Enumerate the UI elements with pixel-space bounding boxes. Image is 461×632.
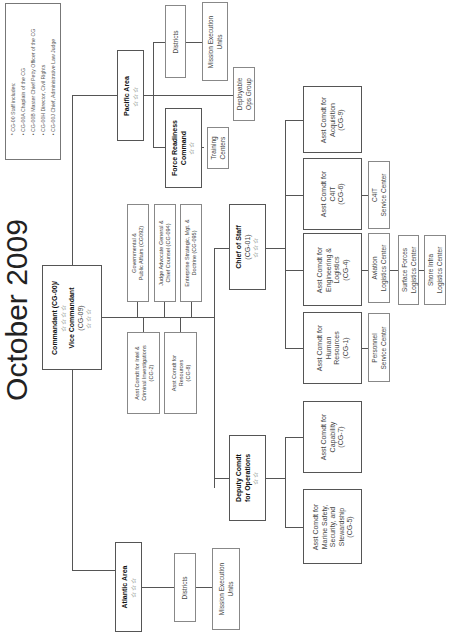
training-centers-box[interactable]: TrainingCenters [207, 127, 229, 169]
label: Asst Comdt for [320, 171, 327, 217]
c4it-service-center-box[interactable]: C4ITService Center [368, 161, 390, 229]
connector [214, 248, 215, 488]
surface-forces-logistics-center-box[interactable]: Surface ForcesLogistics Center [398, 235, 419, 305]
note-item: • CG-00H Director, Civil Rights [38, 28, 48, 134]
label: Capability [328, 422, 335, 453]
label: (CG-8) [184, 365, 190, 382]
staff-box-public-affairs[interactable]: Governmental &Public Affairs (CG092) [127, 204, 149, 302]
connector [285, 437, 286, 527]
label: (CG-9) [337, 109, 344, 130]
label: (CG-1) [341, 337, 348, 358]
asst-comdt-acquisition-box[interactable]: Asst Comdt forAcquisition(CG-9) [303, 86, 362, 153]
label: Asst Comdt for [320, 96, 327, 142]
staff-box-judge-advocate[interactable]: Judge Advocate General &Chief Counsel (C… [154, 204, 176, 302]
label: Stewardship [337, 507, 344, 546]
label: Chief Counsel (CG-094) [165, 224, 171, 283]
personnel-service-center-box[interactable]: PersonnelService Center [368, 313, 390, 382]
connector [164, 302, 165, 317]
label: Aviation [371, 256, 378, 279]
page-title: October 2009 [0, 219, 34, 401]
label: Asst Comdt for Intel & [133, 346, 139, 400]
force-readiness-box[interactable]: Force ReadinessCommand☆☆ [165, 108, 202, 188]
connector [214, 248, 229, 249]
label: Asst Comdt for [311, 503, 318, 549]
label: Surface Forces [400, 248, 407, 292]
label: C4IT [328, 186, 335, 201]
label: Logistics Center [435, 247, 442, 294]
note-heading: * CG-00 Staff includes: [8, 28, 18, 134]
note-item: • CG-00B Master Chief Petty Officer of t… [28, 28, 38, 134]
staff-box-intel[interactable]: Asst Comdt for Intel &Criminal Investiga… [127, 332, 160, 414]
vice-commandant-code: (CG-09) [76, 305, 83, 330]
note-item: • CG-00A Chaplain of the CG [18, 28, 28, 134]
label: Deployable [236, 78, 243, 111]
connector [137, 302, 138, 317]
label: Service Center [379, 174, 386, 217]
label: Enterprise Strategic, Mgt. & [184, 219, 190, 286]
label: Engineering & [324, 248, 331, 292]
label: Mission Execution [218, 563, 225, 615]
label: (CG-6) [337, 183, 344, 204]
label: (CG-01) [243, 234, 250, 259]
connector [285, 120, 286, 348]
connector [214, 478, 229, 479]
label: Marine Safety, [320, 504, 327, 549]
stars-icon: ☆☆☆ [129, 566, 138, 609]
asst-comdt-marine-safety-box[interactable]: Asst Comdt forMarine Safety,Security, an… [303, 489, 362, 564]
label: Units [226, 582, 233, 597]
vice-commandant-title: Vice Commandant [68, 287, 75, 348]
label: Force Readiness [171, 120, 178, 176]
atlantic-area-box[interactable]: Atlantic Area☆☆☆ [115, 542, 142, 632]
label: Asst Comdt for [320, 414, 327, 460]
asst-comdt-capability-box[interactable]: Asst Comdt forCapability(CG-7) [303, 401, 362, 473]
label: Judge Advocate General & [158, 220, 164, 285]
label: Criminal Investigations [140, 345, 146, 400]
label: Asst Comdt for [316, 246, 323, 292]
label: (CG-5) [345, 516, 352, 537]
deputy-comdt-ops-box[interactable]: Deputy Comdtfor Operations☆☆ [229, 435, 266, 521]
connector [72, 370, 73, 570]
pacific-area-box[interactable]: Pacific Area☆☆☆ [117, 50, 144, 141]
stars-icon: ☆☆☆ [131, 76, 140, 116]
label: Chief of Staff [235, 225, 242, 269]
stars-icon: ☆☆ [188, 120, 197, 176]
label: for Operations [243, 454, 250, 502]
pacific-area-title: Pacific Area [122, 76, 129, 116]
atlantic-meu-box[interactable]: Mission ExecutionUnits [212, 548, 240, 630]
label: Human [324, 337, 331, 360]
label: Logistics [333, 256, 340, 283]
label: Personnel [371, 333, 378, 362]
staff-note: * CG-00 Staff includes: • CG-00A Chaplai… [5, 3, 61, 160]
pacific-meu-box[interactable]: Mission ExecutionUnits [202, 2, 228, 81]
connector [153, 147, 165, 148]
label: (CG-2) [147, 365, 153, 382]
staff-box-resources[interactable]: Asst Comdt forResources(CG-8) [164, 332, 197, 414]
chief-of-staff-box[interactable]: Chief of Staff(CG-01)☆☆☆ [229, 204, 266, 290]
aviation-logistics-center-box[interactable]: AviationLogistics Center [368, 233, 390, 303]
shore-infra-logistics-center-box[interactable]: Shore InfraLogistics Center [424, 235, 446, 305]
label: Logistics Center [379, 245, 386, 292]
connector [285, 348, 303, 349]
label: Districts [181, 576, 188, 599]
connector [72, 95, 73, 265]
connector [191, 302, 192, 317]
connector [72, 570, 115, 571]
label: Service Center [379, 326, 386, 369]
asst-comdt-c4it-box[interactable]: Asst Comdt forC4IT(CG-6) [303, 158, 362, 230]
label: Ops Group [244, 78, 251, 110]
asst-comdt-engineering-box[interactable]: Asst Comdt forEngineering &Logistics(CG-… [303, 233, 362, 306]
connector [266, 248, 285, 249]
staff-box-enterprise-strategic[interactable]: Enterprise Strategic, Mgt. &Doctrine (CG… [180, 204, 202, 302]
atlantic-districts-box[interactable]: Districts [174, 553, 196, 622]
deployable-ops-group-box[interactable]: DeployableOps Group [233, 67, 255, 121]
connector [266, 478, 285, 479]
label: (CG-7) [337, 426, 344, 447]
commandant-box[interactable]: Commandant (CG-00)/ ☆☆☆☆ Vice Commandant… [42, 265, 102, 370]
label: Doctrine (CG-095) [191, 231, 197, 276]
label: Logistics Center [409, 247, 416, 294]
stars-icon: ☆☆☆☆ [59, 281, 68, 355]
label: Shore Infra [427, 254, 434, 286]
pacific-districts-box[interactable]: Districts [165, 5, 186, 78]
label: Acquisition [328, 103, 335, 137]
asst-comdt-hr-box[interactable]: Asst Comdt forHumanResources(CG-1) [303, 312, 362, 384]
